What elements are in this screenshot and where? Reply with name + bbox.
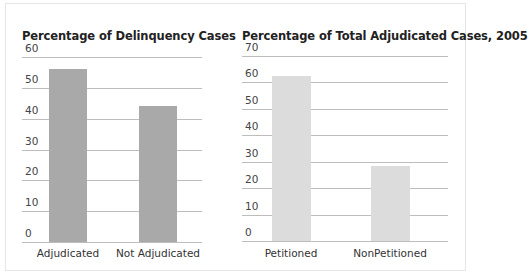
- y-tick-label: 0: [245, 226, 252, 238]
- y-tick-label: 50: [245, 94, 258, 106]
- gridline: [242, 56, 448, 57]
- y-tick-label: 10: [245, 200, 258, 212]
- y-tick-label: 30: [245, 147, 258, 159]
- chart-title: Percentage of Total Adjudicated Cases, 2…: [242, 29, 528, 43]
- y-tick-label: 20: [245, 173, 258, 185]
- y-tick-label: 70: [245, 41, 258, 53]
- x-category-label: Petitioned: [265, 247, 318, 259]
- gridline: [242, 241, 448, 242]
- bar-nonpetitioned: [371, 166, 410, 241]
- y-tick-label: 60: [245, 67, 258, 79]
- bar-petitioned: [272, 76, 311, 241]
- x-category-label: NonPetitioned: [353, 247, 427, 259]
- y-tick-label: 40: [245, 120, 258, 132]
